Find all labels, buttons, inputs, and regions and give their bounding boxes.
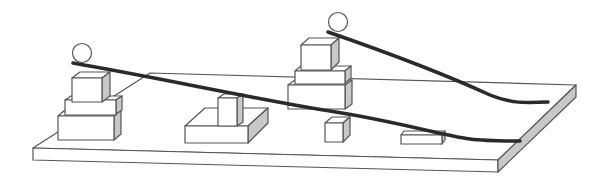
center-stack	[288, 13, 352, 110]
small-cube	[325, 117, 350, 142]
ball-center	[329, 13, 348, 32]
ball-left	[73, 44, 92, 63]
diagram-canvas	[0, 0, 609, 182]
ramps-diagram	[0, 0, 609, 182]
left-stack	[58, 44, 122, 141]
